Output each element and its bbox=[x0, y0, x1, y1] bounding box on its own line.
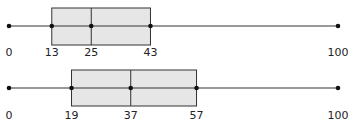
median-point bbox=[89, 24, 94, 29]
min-label: 0 bbox=[6, 46, 13, 59]
max-point bbox=[336, 86, 341, 91]
min-label: 0 bbox=[6, 109, 13, 122]
q1-label: 13 bbox=[45, 46, 59, 59]
q1-point bbox=[49, 24, 54, 29]
box-plot-chart: 01325431000193757100 bbox=[0, 0, 359, 132]
min-point bbox=[7, 24, 12, 29]
median-label: 25 bbox=[84, 46, 98, 59]
median-point bbox=[128, 86, 133, 91]
max-point bbox=[336, 24, 341, 29]
max-label: 100 bbox=[328, 109, 349, 122]
median-label: 37 bbox=[124, 109, 138, 122]
q1-point bbox=[69, 86, 74, 91]
q3-label: 43 bbox=[143, 46, 157, 59]
min-point bbox=[7, 86, 12, 91]
q3-label: 57 bbox=[190, 109, 204, 122]
max-label: 100 bbox=[328, 46, 349, 59]
q1-label: 19 bbox=[65, 109, 79, 122]
q3-point bbox=[194, 86, 199, 91]
box-plot-1: 0132543100 bbox=[6, 8, 349, 59]
q3-point bbox=[148, 24, 153, 29]
box-plot-2: 0193757100 bbox=[6, 70, 349, 122]
